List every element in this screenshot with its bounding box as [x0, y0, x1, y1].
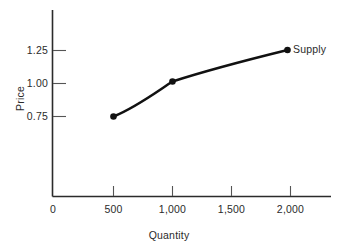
y-tick-label-0-75: 0.75 — [4, 110, 48, 122]
y-axis-title: Price — [14, 86, 26, 111]
y-tick-label-1-00: 1.00 — [4, 77, 48, 89]
data-point-1000 — [169, 78, 176, 85]
data-point-2000 — [284, 47, 291, 54]
y-tick-label-1-25: 1.25 — [4, 44, 48, 56]
x-tick-label-1500: 1,500 — [209, 203, 254, 215]
data-point-500 — [110, 113, 117, 120]
supply-curve-line — [114, 50, 288, 117]
x-tick-label-500: 500 — [93, 203, 134, 215]
x-tick-label-1000: 1,000 — [150, 203, 195, 215]
x-axis-title: Quantity — [0, 229, 338, 241]
x-tick-label-2000: 2,000 — [268, 203, 313, 215]
supply-curve-chart: 1.25 1.00 0.75 0 500 1,000 1,500 2,000 P… — [0, 0, 338, 251]
x-tick-label-0: 0 — [33, 203, 73, 215]
supply-series-label: Supply — [293, 43, 326, 55]
